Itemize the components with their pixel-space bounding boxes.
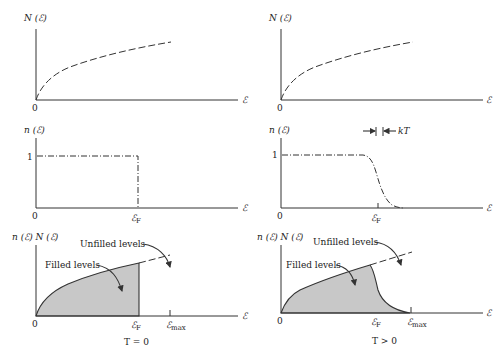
ylabel: N (ℰ): [268, 13, 292, 23]
fermi-energy-tick: ℰF: [131, 320, 141, 332]
panel-left-filled-levels: n (ℰ) N (ℰ) 0 ℰ ℰF ℰmax Filled levels Un…: [12, 232, 249, 347]
origin-label: 0: [32, 319, 38, 329]
xlabel: ℰ: [242, 95, 249, 105]
ylabel: n (ℰ) N (ℰ): [12, 232, 59, 242]
unfilled-curve: [370, 252, 412, 265]
filled-region: [36, 263, 139, 316]
unfilled-arrow: [143, 244, 170, 267]
fermi-energy-tick: ℰF: [131, 213, 141, 225]
panel-left-occupation: n (ℰ) 1 0 ℰ ℰF: [24, 125, 249, 225]
fermi-dirac-curve: [282, 155, 404, 208]
kt-label: kT: [398, 126, 410, 136]
origin-label: 0: [32, 103, 38, 113]
density-curve: [36, 42, 171, 100]
filled-levels-label: Filled levels: [45, 260, 100, 270]
panel-right-occupation: n (ℰ) 1 0 ℰ ℰF kT: [269, 125, 493, 225]
occupation-step-curve: [37, 156, 138, 207]
xlabel: ℰ: [486, 95, 493, 105]
max-energy-tick: ℰmax: [166, 320, 186, 332]
ylabel: n (ℰ) N (ℰ): [257, 232, 304, 242]
density-curve: [281, 42, 413, 100]
fermi-distribution-figure: N (ℰ) 0 ℰ n (ℰ) 1 0 ℰ ℰF n (ℰ) N (ℰ) 0 ℰ…: [0, 0, 502, 363]
unfilled-arrow: [375, 242, 401, 265]
panel-right-density-of-states: N (ℰ) 0 ℰ: [268, 13, 493, 113]
y-tick-one: 1: [27, 152, 33, 162]
ylabel: N (ℰ): [23, 13, 47, 23]
ylabel: n (ℰ): [269, 125, 290, 135]
origin-label: 0: [277, 211, 283, 221]
origin-label: 0: [277, 316, 283, 326]
panel-left-density-of-states: N (ℰ) 0 ℰ: [23, 13, 249, 113]
fermi-energy-tick: ℰF: [371, 213, 381, 225]
xlabel: ℰ: [242, 203, 249, 213]
unfilled-levels-label: Unfilled levels: [80, 239, 146, 249]
xlabel: ℰ: [486, 203, 493, 213]
origin-label: 0: [32, 211, 38, 221]
ylabel: n (ℰ): [24, 125, 45, 135]
xlabel: ℰ: [486, 308, 493, 318]
filled-region: [281, 265, 410, 313]
panel-right-filled-levels: n (ℰ) N (ℰ) 0 ℰ ℰF ℰmax Filled levels Un…: [257, 232, 493, 346]
filled-levels-label: Filled levels: [286, 260, 341, 270]
y-tick-one: 1: [272, 150, 278, 160]
max-energy-tick: ℰmax: [407, 317, 427, 329]
origin-label: 0: [277, 103, 283, 113]
unfilled-levels-label: Unfilled levels: [313, 237, 379, 247]
condition-label: T > 0: [372, 336, 397, 346]
condition-label: T = 0: [124, 337, 149, 347]
xlabel: ℰ: [242, 311, 249, 321]
fermi-energy-tick: ℰF: [371, 317, 381, 329]
